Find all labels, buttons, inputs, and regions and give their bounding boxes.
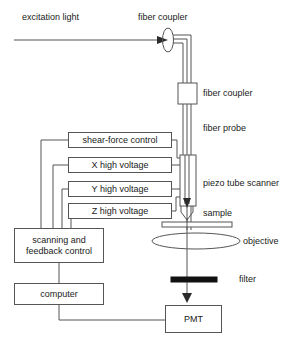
y-high-voltage-label: Y high voltage <box>92 184 149 195</box>
scanning-feedback-control-label-line1: scanning and <box>32 235 86 246</box>
objective-lens-icon <box>152 233 240 249</box>
pmt-box[interactable]: PMT <box>165 305 222 333</box>
sample-label: sample <box>203 208 232 218</box>
optical-filter-bar <box>171 277 217 282</box>
pmt-label: PMT <box>184 314 203 325</box>
shear-force-control-label: shear-force control <box>82 135 157 146</box>
x-high-voltage-label: X high voltage <box>91 160 148 171</box>
fiber-coupler-right-label: fiber coupler <box>203 88 253 98</box>
emission-arrowhead <box>182 293 192 303</box>
y-high-voltage-box[interactable]: Y high voltage <box>68 181 172 197</box>
objective-label: objective <box>243 236 279 246</box>
excitation-light-arrow <box>14 36 168 44</box>
shear-force-control-box[interactable]: shear-force control <box>68 132 172 148</box>
scanning-feedback-control-label-line2: feedback control <box>26 246 92 257</box>
computer-box[interactable]: computer <box>14 283 104 305</box>
filter-label: filter <box>239 274 256 284</box>
z-high-voltage-label: Z high voltage <box>92 206 149 217</box>
sample-slide <box>162 222 232 227</box>
scanning-and-feedback-control-box[interactable]: scanning and feedback control <box>14 228 104 263</box>
computer-label: computer <box>40 289 78 300</box>
piezo-tube-scanner-label: piezo tube scanner <box>203 178 279 188</box>
fiber-coupler-box <box>178 83 197 104</box>
x-high-voltage-box[interactable]: X high voltage <box>68 157 172 173</box>
excitation-light-label: excitation light <box>22 12 79 22</box>
z-high-voltage-box[interactable]: Z high voltage <box>68 203 172 219</box>
fiber-coupler-top-label: fiber coupler <box>138 12 188 22</box>
fiber-probe-label: fiber probe <box>203 123 246 133</box>
